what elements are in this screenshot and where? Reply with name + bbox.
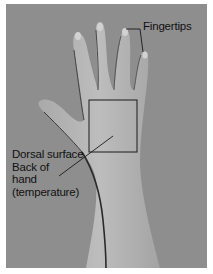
fingernail: [97, 23, 103, 31]
hand-shape: [38, 22, 160, 268]
hand-illustration: [6, 4, 207, 268]
dorsal-label-line-2: Back of: [12, 161, 83, 174]
fingernail: [142, 52, 147, 59]
dorsal-surface-label: Dorsal surface Back of hand (temperature…: [12, 148, 83, 198]
dorsal-label-line-1: Dorsal surface: [12, 148, 83, 161]
fingernail: [75, 32, 81, 40]
hand-photo: [6, 4, 207, 268]
dorsal-label-line-4: (temperature): [12, 186, 83, 199]
fingertips-label: Fingertips: [143, 20, 192, 33]
dorsal-label-line-3: hand: [12, 173, 83, 186]
